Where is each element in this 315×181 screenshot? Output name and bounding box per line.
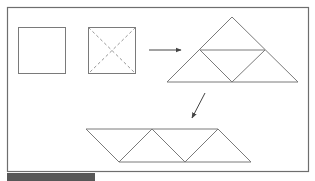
diagram-canvas [0, 0, 315, 181]
big-triangle [167, 17, 298, 82]
parallelogram [86, 129, 251, 162]
diagram-frame [8, 8, 309, 172]
footer-bar [7, 173, 95, 181]
cut-square [89, 28, 136, 74]
plain-square [19, 28, 66, 74]
arrow-down-left-icon [192, 93, 205, 118]
